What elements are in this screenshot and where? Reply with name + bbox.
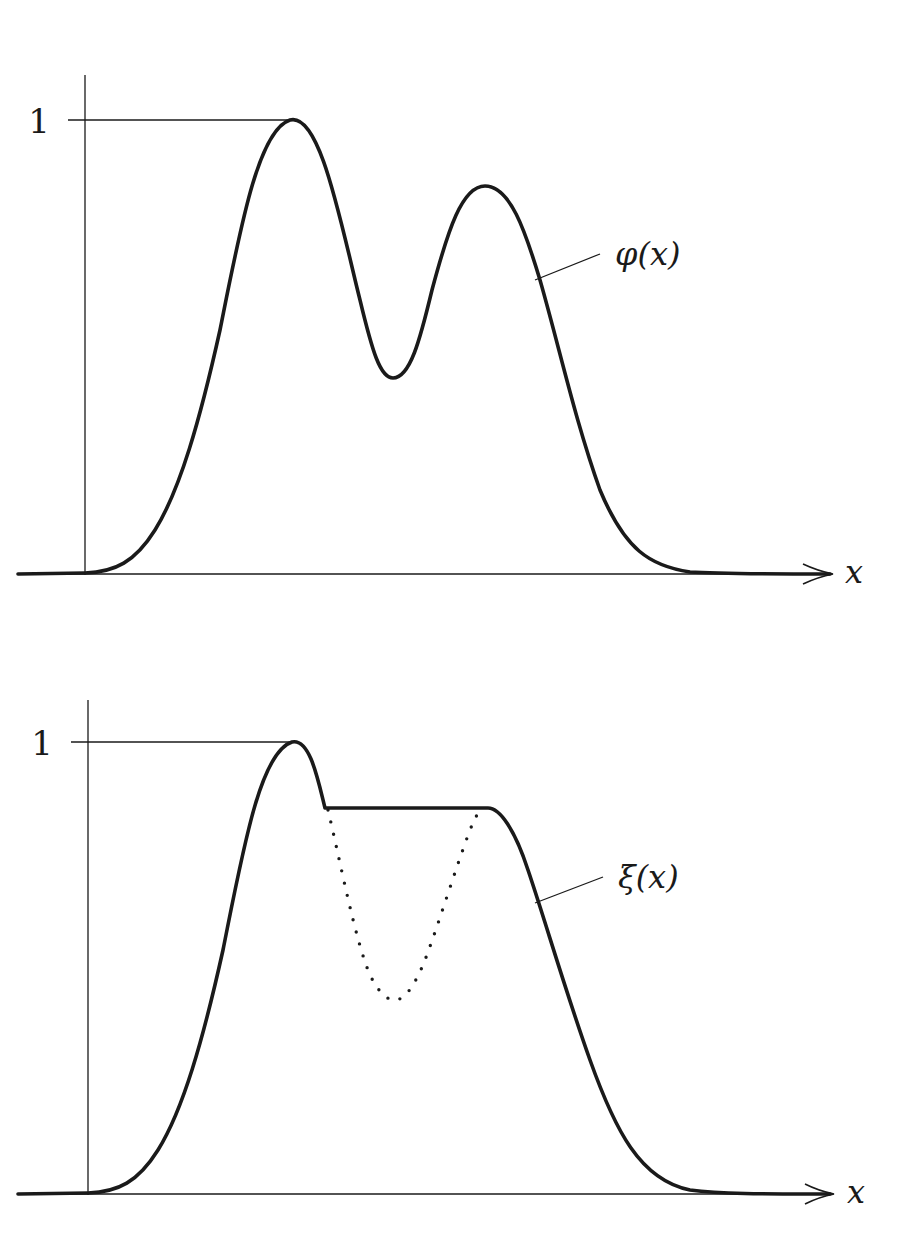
- x-axis-label: x: [847, 1173, 865, 1211]
- figure-canvas: 1 x φ(x) 1 x ξ(x): [0, 0, 903, 1244]
- y-tick-label: 1: [28, 101, 50, 141]
- xi-curve: [18, 742, 830, 1194]
- xi-label: ξ(x): [618, 858, 679, 896]
- phi-label-leader: [535, 254, 600, 280]
- xi-label-leader: [535, 877, 603, 903]
- y-tick-label: 1: [31, 723, 53, 763]
- phi-label: φ(x): [615, 235, 680, 273]
- phi-valley-dotted-curve: [328, 808, 482, 1000]
- phi-curve: [18, 120, 830, 574]
- phi-panel: 1 x φ(x): [18, 75, 863, 591]
- x-axis-label: x: [845, 553, 863, 591]
- xi-panel: 1 x ξ(x): [18, 700, 865, 1211]
